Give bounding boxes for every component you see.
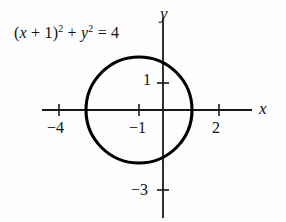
equation-plus: +: [63, 24, 81, 41]
equation-var-x: x: [20, 24, 27, 41]
x-tick-label-minus-1: −1: [129, 120, 146, 136]
circle-graph-figure: (x + 1)2 + y2 = 4 y x −4 −1 2 1 −3: [0, 0, 286, 222]
equation-equals-four: = 4: [93, 24, 119, 41]
y-axis-label: y: [160, 5, 168, 22]
y-tick-label-1: 1: [143, 72, 151, 88]
x-axis-label: x: [259, 100, 267, 117]
x-tick-label-2: 2: [212, 120, 220, 136]
equation-plus-one: + 1: [27, 24, 53, 41]
equation-label: (x + 1)2 + y2 = 4: [14, 25, 119, 41]
y-tick-label-minus-3: −3: [131, 182, 148, 198]
x-tick-label-minus-4: −4: [47, 120, 64, 136]
